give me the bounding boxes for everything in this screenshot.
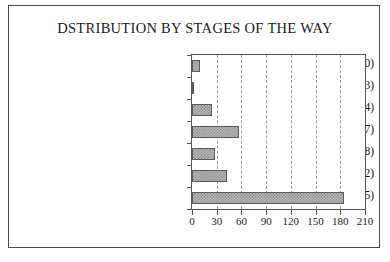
value-axis-tick-label: 210	[345, 215, 385, 227]
gridline	[340, 55, 341, 209]
bar	[192, 148, 215, 160]
bar	[192, 82, 194, 94]
category-axis-tick	[187, 99, 192, 100]
category-axis-tick	[187, 187, 192, 188]
category-axis-tick	[187, 77, 192, 78]
bar	[192, 170, 227, 182]
bar	[192, 60, 200, 72]
category-axis-tick	[187, 55, 192, 56]
category-axis-tick	[187, 121, 192, 122]
gridline	[266, 55, 267, 209]
category-axis-tick	[187, 165, 192, 166]
bar	[192, 192, 344, 204]
gridline	[291, 55, 292, 209]
gridline	[316, 55, 317, 209]
bar	[192, 104, 212, 116]
category-axis-tick	[187, 143, 192, 144]
plot-area: 0306090120150180210	[191, 54, 366, 210]
gridline	[241, 55, 242, 209]
chart-title: DSTRIBUTION BY STAGES OF THE WAY	[9, 20, 381, 37]
figure-frame: DSTRIBUTION BY STAGES OF THE WAY Renewal…	[8, 5, 380, 248]
bar	[192, 126, 239, 138]
